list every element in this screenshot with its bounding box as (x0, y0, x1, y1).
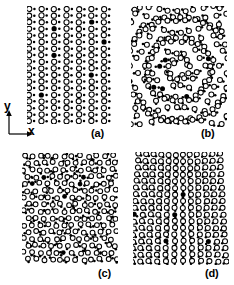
panel-label-b: (b) (201, 128, 214, 139)
panel-a-canvas (27, 6, 115, 124)
panel-label-d: (d) (205, 268, 218, 279)
panel-b-canvas (131, 6, 227, 127)
panel-d (133, 152, 229, 265)
xy-axis-indicator-icon (3, 100, 39, 140)
figure-root: (a) (b) (c) (d) y x (0, 0, 234, 285)
panel-label-a: (a) (91, 128, 104, 139)
panel-a (27, 6, 115, 124)
panel-c-canvas (22, 153, 118, 265)
panel-label-c: (c) (98, 268, 111, 279)
panel-c (22, 153, 118, 265)
panel-b (131, 6, 227, 127)
panel-d-canvas (133, 152, 229, 265)
